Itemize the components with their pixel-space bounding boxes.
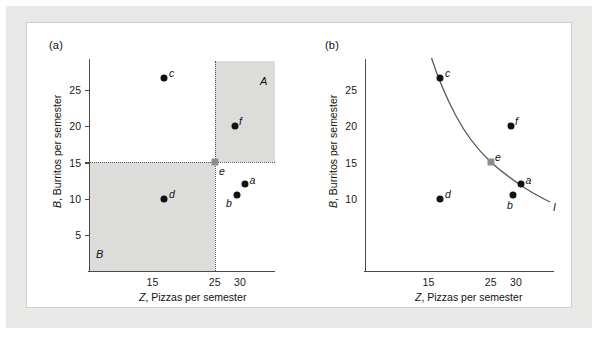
datapoint-a: [241, 181, 248, 188]
datapoint-d: [161, 195, 168, 202]
panel-b-x-axis-title-rest: , Pizzas per semester: [421, 291, 522, 303]
panel-a-xticklabel-15: 15: [140, 276, 164, 288]
panel-a-ytick-5: [85, 235, 89, 236]
datapoint-label-d: d: [169, 188, 175, 200]
indifference-curve: [303, 23, 573, 309]
datapoint-label-c: c: [445, 67, 450, 79]
datapoint-e: [211, 158, 218, 165]
datapoint-label-a: a: [526, 174, 532, 186]
panel-a-y-axis-title-var: B: [51, 201, 63, 208]
panel-a-y-axis-title: B, Burritos per semester: [51, 95, 63, 208]
datapoint-label-d: d: [445, 188, 451, 200]
region-label-a: A: [260, 75, 267, 87]
panel-b-y-axis-title-rest: , Burritos per semester: [327, 95, 339, 201]
datapoint-b: [510, 191, 517, 198]
panel-a-yticklabel-5: 5: [55, 229, 81, 241]
datapoint-f: [507, 123, 514, 130]
datapoint-label-e: e: [219, 165, 225, 177]
panel-b-y-axis-title-var: B: [327, 201, 339, 208]
datapoint-a: [517, 181, 524, 188]
panel-a-x-axis-title-rest: , Pizzas per semester: [145, 291, 246, 303]
datapoint-label-e: e: [495, 151, 501, 163]
panel-a-x-axis: [88, 271, 275, 272]
panel-b-x-axis-title: Z, Pizzas per semester: [415, 291, 522, 303]
panel-a-x-axis-title: Z, Pizzas per semester: [139, 291, 246, 303]
figure-canvas: (a) 5 10 15 20 25: [26, 22, 572, 308]
panel-a-dotted-line-vertical: [215, 61, 216, 271]
curve-label: I: [553, 201, 556, 213]
figure-outer-frame: (a) 5 10 15 20 25: [6, 6, 592, 328]
panel-a-ytick-10: [85, 199, 89, 200]
panel-a-xticklabel-30: 30: [228, 276, 252, 288]
panel-b-y-axis-title: B, Burritos per semester: [327, 95, 339, 208]
panel-a-dotted-line-horizontal: [89, 162, 275, 163]
datapoint-label-f: f: [239, 115, 242, 127]
datapoint-label-f: f: [515, 115, 518, 127]
panel-a-plot: 5 10 15 20 25 15 25 30 A B c f: [27, 23, 307, 309]
datapoint-c: [161, 74, 168, 81]
datapoint-label-b: b: [507, 199, 513, 211]
datapoint-label-b: b: [226, 197, 232, 209]
datapoint-f: [231, 123, 238, 130]
datapoint-b: [234, 191, 241, 198]
panel-a-xticklabel-25: 25: [203, 276, 227, 288]
datapoint-e: [487, 158, 494, 165]
region-label-b: B: [96, 248, 103, 260]
panel-b-plot: 10 15 20 25 15 25 30 I c f e: [303, 23, 573, 309]
datapoint-c: [437, 74, 444, 81]
datapoint-label-a: a: [250, 174, 256, 186]
panel-a-y-axis: [89, 59, 90, 272]
datapoint-label-c: c: [169, 67, 174, 79]
datapoint-d: [437, 195, 444, 202]
panel-a: (a) 5 10 15 20 25: [27, 23, 307, 309]
panel-a-y-axis-title-rest: , Burritos per semester: [51, 95, 63, 201]
region-b-shading: [89, 162, 215, 271]
panel-a-ytick-20: [85, 126, 89, 127]
panel-a-ytick-25: [85, 90, 89, 91]
panel-b: (b) 10 15 20 25 15 25 30 I: [303, 23, 573, 309]
